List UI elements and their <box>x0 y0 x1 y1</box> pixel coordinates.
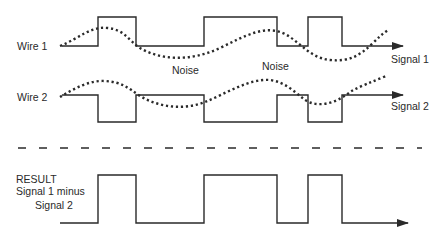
result-subtitle-line1: Signal 1 minus <box>16 185 85 197</box>
noise-label-right: Noise <box>262 60 289 72</box>
wire2-noise-curve <box>60 76 386 107</box>
signal2-label: Signal 2 <box>391 100 429 112</box>
wire1-label: Wire 1 <box>17 40 47 52</box>
wire1-noise-curve <box>60 28 388 61</box>
noise-label-left: Noise <box>172 64 199 76</box>
wire1-signal-waveform <box>62 17 403 46</box>
result-subtitle-line2: Signal 2 <box>35 199 73 211</box>
result-waveform <box>60 175 408 223</box>
wire2-label: Wire 2 <box>17 91 47 103</box>
result-title: RESULT <box>16 173 57 185</box>
signal1-label: Signal 1 <box>391 53 429 65</box>
wire2-signal-waveform <box>62 95 403 122</box>
